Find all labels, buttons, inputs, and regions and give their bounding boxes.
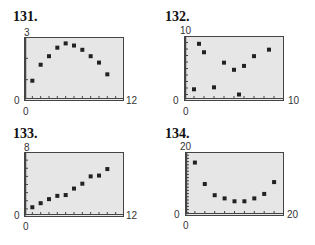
data-point — [252, 196, 256, 200]
data-point — [203, 182, 207, 186]
data-point — [64, 193, 68, 197]
data-point — [105, 72, 109, 76]
data-point — [272, 180, 276, 184]
data-point — [97, 174, 101, 178]
chart-panel-132: 132. 10 0 0 10 — [155, 0, 315, 120]
data-point — [64, 41, 68, 45]
data-point — [192, 87, 196, 91]
data-point — [80, 182, 84, 186]
data-point — [232, 68, 236, 72]
data-point — [47, 197, 51, 201]
data-point — [237, 93, 241, 97]
data-point — [212, 85, 216, 89]
data-point — [193, 161, 197, 165]
data-point — [80, 48, 84, 52]
data-point — [89, 54, 93, 58]
data-point — [55, 194, 59, 198]
data-point — [72, 44, 76, 48]
data-point — [252, 54, 256, 58]
data-point — [72, 187, 76, 191]
data-point — [105, 167, 109, 171]
data-point — [262, 192, 266, 196]
data-point — [267, 48, 271, 52]
chart-panel-131: 131. 3 0 0 12 — [0, 0, 155, 120]
data-point — [97, 61, 101, 65]
data-point — [89, 174, 93, 178]
chart-panel-133: 133. 8 0 0 12 — [0, 120, 155, 245]
scatter-plot — [155, 0, 315, 120]
data-point — [39, 63, 43, 67]
data-point — [222, 61, 226, 65]
data-point — [202, 50, 206, 54]
scatter-plot — [155, 120, 315, 245]
scatter-plot — [0, 120, 155, 245]
data-point — [197, 42, 201, 46]
data-point — [213, 193, 217, 197]
chart-panel-134: 134. 20 0 0 20 — [155, 120, 315, 245]
data-point — [30, 79, 34, 83]
data-point — [233, 199, 237, 203]
data-point — [30, 205, 34, 209]
data-point — [47, 54, 51, 58]
data-point — [242, 64, 246, 68]
data-point — [242, 199, 246, 203]
data-point — [39, 201, 43, 205]
data-point — [55, 46, 59, 50]
data-point — [223, 196, 227, 200]
scatter-plot — [0, 0, 155, 120]
